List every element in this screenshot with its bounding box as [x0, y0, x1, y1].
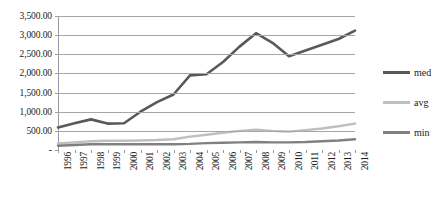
x-axis-tick-label: 2011: [310, 152, 320, 170]
legend-item-min[interactable]: min: [383, 126, 430, 138]
y-axis-tickmark: [55, 35, 58, 36]
gridline: [58, 112, 355, 113]
y-axis-tick-label: 3,500.00: [20, 11, 52, 21]
line-chart: 3,500.003,000.002,500.002,000.001,500.00…: [0, 0, 447, 203]
legend-label-avg: avg: [414, 97, 428, 108]
y-axis-tickmark: [55, 93, 58, 94]
legend-swatch-min: [383, 131, 410, 134]
plot-area: [58, 16, 355, 150]
x-axis-tick-label: 2014: [360, 152, 370, 170]
chart-legend: medavgmin: [383, 60, 447, 146]
y-axis-tickmark: [55, 131, 58, 132]
x-axis-tick-label: 2007: [244, 152, 254, 170]
y-axis-tickmark: [55, 112, 58, 113]
y-axis-tickmark: [55, 54, 58, 55]
legend-item-med[interactable]: med: [383, 66, 431, 78]
y-axis-tickmark: [55, 16, 58, 17]
legend-swatch-med: [383, 71, 410, 74]
y-axis-tick-label: 3,000.00: [20, 30, 52, 40]
x-axis-tick-label: 1996: [63, 152, 73, 170]
gridline: [58, 93, 355, 94]
x-axis-labels: 1996199719981999200020012002200320042005…: [58, 150, 355, 203]
y-axis-tick-label: 1,500.00: [20, 88, 52, 98]
x-axis-tick-label: 1998: [96, 152, 106, 170]
x-axis-tick-label: 2002: [162, 152, 172, 170]
legend-label-med: med: [414, 67, 431, 78]
y-axis-labels: 3,500.003,000.002,500.002,000.001,500.00…: [0, 0, 56, 203]
series-line-med: [58, 31, 355, 128]
x-axis-tick-label: 2006: [228, 152, 238, 170]
y-axis-tick-label: 2,500.00: [20, 49, 52, 59]
gridline: [58, 131, 355, 132]
series-line-avg: [58, 124, 355, 144]
x-axis-tick-label: 2001: [145, 152, 155, 170]
x-axis-tickmark: [355, 150, 356, 153]
x-axis-tick-label: 2003: [178, 152, 188, 170]
y-axis-tick-label: 500.00: [26, 126, 52, 136]
gridline: [58, 35, 355, 36]
x-axis-tick-label: 1999: [112, 152, 122, 170]
y-axis-tick-label: -: [49, 145, 52, 155]
legend-label-min: min: [414, 127, 430, 138]
x-axis-tick-label: 2010: [294, 152, 304, 170]
x-axis-tick-label: 1997: [79, 152, 89, 170]
x-axis-tick-label: 2009: [277, 152, 287, 170]
gridline: [58, 54, 355, 55]
x-axis-tick-label: 2005: [211, 152, 221, 170]
y-axis-tickmark: [55, 73, 58, 74]
gridline: [58, 73, 355, 74]
gridline: [58, 16, 355, 17]
y-axis-tick-label: 2,000.00: [20, 68, 52, 78]
y-axis-tick-label: 1,000.00: [20, 107, 52, 117]
x-axis-tick-label: 2013: [343, 152, 353, 170]
x-axis-tick-label: 2004: [195, 152, 205, 170]
x-axis-tick-label: 2008: [261, 152, 271, 170]
legend-item-avg[interactable]: avg: [383, 96, 428, 108]
legend-swatch-avg: [383, 101, 410, 104]
x-axis-tick-label: 2000: [129, 152, 139, 170]
x-axis-tick-label: 2012: [327, 152, 337, 170]
